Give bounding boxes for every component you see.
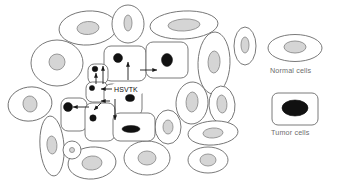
- normal-cell-nucleus: [49, 54, 65, 70]
- tumor-cell-membrane: [61, 98, 87, 131]
- normal-cell-nucleus: [70, 148, 75, 153]
- tumor-cell-membrane: [88, 64, 108, 84]
- tumor-cell: [146, 42, 188, 78]
- normal-cell: [155, 110, 181, 144]
- normal-cell-nucleus: [241, 37, 249, 53]
- gene-label-hsvtk: HSVTK: [114, 86, 138, 93]
- legend-label-tumor-cells: Tumor cells: [271, 128, 310, 137]
- tumor-cell-nucleus: [90, 115, 96, 121]
- legend-label-normal-cells: Normal cells: [270, 66, 312, 75]
- tumor-cell-nucleus: [64, 103, 73, 112]
- legend-normal-cell-nucleus: [284, 41, 306, 53]
- tumor-cell-membrane: [104, 46, 146, 81]
- tumor-cell-nucleus: [89, 85, 94, 90]
- tumor-cell-nucleus: [162, 54, 173, 67]
- normal-cell: [31, 40, 83, 86]
- tumor-cell-nucleus: [122, 126, 140, 133]
- normal-cell-nucleus: [138, 151, 156, 165]
- normal-cell: [234, 27, 256, 65]
- normal-cell-nucleus: [124, 15, 132, 31]
- tumor-cell: [104, 46, 146, 81]
- tumor-cell: [61, 98, 87, 131]
- tumor-cell: [85, 103, 115, 141]
- figure-root: HSVTK Normal cells Tumor cells: [0, 0, 341, 193]
- tumor-cell-nucleus: [126, 95, 135, 102]
- normal-cell-nucleus: [200, 154, 216, 166]
- tumor-cell-nucleus: [114, 54, 123, 63]
- tumor-cell-nucleus: [92, 66, 98, 72]
- normal-cell-nucleus: [208, 51, 221, 73]
- normal-cell: [63, 141, 81, 159]
- tumor-cell-membrane: [85, 103, 115, 141]
- normal-cell: [188, 147, 228, 173]
- legend-tumor-cell-nucleus: [282, 100, 308, 116]
- tumor-cell: [88, 64, 108, 84]
- normal-cell: [124, 141, 170, 175]
- normal-cell: [112, 5, 144, 43]
- gene-label-group: HSVTK: [112, 83, 144, 94]
- cell-diagram-svg: HSVTK Normal cells Tumor cells: [0, 0, 341, 193]
- tumor-cell: [113, 113, 155, 141]
- normal-cell-nucleus: [163, 120, 173, 134]
